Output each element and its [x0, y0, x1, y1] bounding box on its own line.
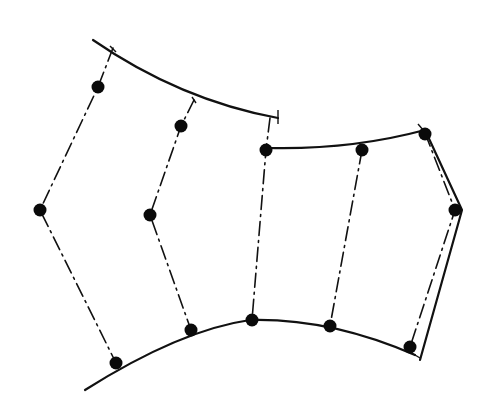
- node-dot: [185, 324, 198, 337]
- node-dot: [92, 81, 105, 94]
- node-dot: [324, 320, 337, 333]
- upper-left-arc: [93, 40, 278, 118]
- node-dot: [175, 120, 188, 133]
- upper-right-arc: [268, 130, 425, 148]
- node-dot: [404, 341, 417, 354]
- dashdot-line: [330, 150, 362, 326]
- boundary-curves: [85, 40, 462, 390]
- dashdot-line: [40, 48, 116, 363]
- sketch-diagram: [0, 0, 501, 417]
- node-dot: [144, 209, 157, 222]
- node-dot: [110, 357, 123, 370]
- tick-marks: [110, 46, 430, 358]
- node-dot: [419, 128, 432, 141]
- node-dot: [449, 204, 462, 217]
- dashdot-line: [150, 100, 194, 330]
- node-dot: [356, 144, 369, 157]
- node-dot: [246, 314, 259, 327]
- node-dot: [34, 204, 47, 217]
- lower-arc: [85, 320, 415, 390]
- node-dot: [260, 144, 273, 157]
- right-edge: [420, 130, 462, 360]
